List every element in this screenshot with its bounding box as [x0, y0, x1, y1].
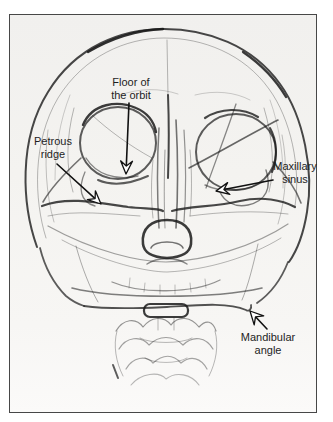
floor-of-orbit-label-line1: Floor of [95, 76, 167, 89]
petrous-ridge-label-line2: ridge [20, 148, 86, 161]
petrous-ridge-label-line1: Petrous [20, 135, 86, 148]
figure-canvas: Floor of the orbit Petrous ridge Maxilla… [0, 0, 333, 422]
mandibular-angle-label-line2: angle [231, 344, 305, 357]
maxillary-sinus-label-line2: sinus [264, 173, 326, 186]
floor-of-orbit-label-line2: the orbit [95, 89, 167, 102]
mandibular-angle-label-line1: Mandibular [231, 331, 305, 344]
maxillary-sinus-label-line1: Maxillary [264, 160, 326, 173]
mandibular-angle-label: Mandibular angle [231, 331, 305, 356]
petrous-ridge-label: Petrous ridge [20, 135, 86, 160]
floor-of-orbit-label: Floor of the orbit [95, 76, 167, 101]
maxillary-sinus-label: Maxillary sinus [264, 160, 326, 185]
